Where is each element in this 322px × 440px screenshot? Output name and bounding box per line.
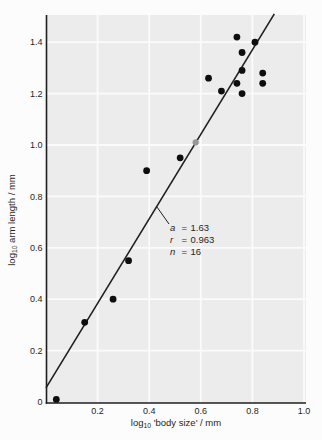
x-tick-label: 0.2 [91,406,104,416]
data-point [259,70,266,77]
data-point [259,80,266,87]
y-tick-label: 0 [37,397,42,407]
x-axis-title: log10 'body size' / mm [131,417,221,429]
data-point [205,75,212,82]
plot-area [46,15,306,403]
y-tick-label: 0.8 [30,192,43,202]
y-tick-label: 1.2 [30,89,43,99]
data-point [234,80,241,87]
chart-svg: 00.20.40.60.81.01.21.40.20.40.60.81.0log… [0,0,322,440]
y-tick-label: 1.4 [30,37,43,47]
data-point [110,296,117,303]
x-tick-label: 0.4 [143,406,156,416]
x-tick-label: 1.0 [298,406,311,416]
data-point [239,90,246,97]
data-point [239,67,246,74]
data-point [239,49,246,56]
highlighted-point [193,139,199,145]
scatter-chart-figure: 00.20.40.60.81.01.21.40.20.40.60.81.0log… [0,0,322,440]
x-tick-label: 0.6 [195,406,208,416]
data-point [177,154,184,161]
y-tick-label: 0.2 [30,346,43,356]
data-point [53,396,60,403]
data-point [143,167,150,174]
data-point [234,34,241,41]
data-point [125,257,132,264]
data-point [218,88,225,95]
x-tick-label: 0.8 [246,406,259,416]
y-tick-label: 1.0 [30,140,43,150]
y-tick-label: 0.6 [30,243,43,253]
data-point [252,39,259,46]
annotation-stat-line: n=16 [170,246,201,257]
y-tick-label: 0.4 [30,294,43,304]
data-point [81,319,88,326]
y-axis-title: log10 arm length / mm [6,174,18,266]
